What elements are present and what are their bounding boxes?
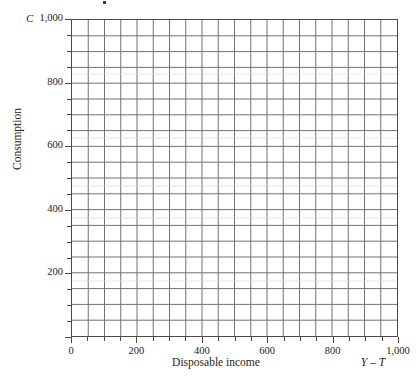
x-tick-mark	[136, 337, 137, 343]
y-tick-mark	[65, 146, 71, 147]
x-tick-label: 0	[48, 345, 94, 356]
y-tick-mark	[67, 51, 71, 52]
grid-lines	[72, 20, 397, 336]
x-tick-mark	[349, 337, 350, 341]
y-tick-label: 200	[15, 266, 63, 277]
x-tick-mark	[284, 337, 285, 341]
x-tick-label: 400	[179, 345, 225, 356]
y-tick-mark	[67, 178, 71, 179]
y-tick-mark	[67, 99, 71, 100]
x-tick-mark	[300, 337, 301, 341]
x-tick-mark	[185, 337, 186, 341]
x-axis-symbol: Y – T	[338, 356, 408, 368]
x-tick-mark	[87, 337, 88, 341]
x-tick-mark	[251, 337, 252, 341]
x-tick-mark	[365, 337, 366, 341]
y-tick-mark	[67, 258, 71, 259]
y-tick-label: 1,000	[15, 12, 63, 23]
x-tick-mark	[202, 337, 203, 343]
y-tick-mark	[67, 114, 71, 115]
x-tick-mark	[316, 337, 317, 341]
y-tick-mark	[65, 83, 71, 84]
y-tick-mark	[67, 35, 71, 36]
y-tick-mark	[67, 130, 71, 131]
x-tick-mark	[382, 337, 383, 341]
y-tick-mark	[65, 273, 71, 274]
y-tick-mark	[67, 321, 71, 322]
y-tick-mark	[67, 242, 71, 243]
y-tick-mark	[67, 162, 71, 163]
x-tick-mark	[398, 337, 399, 343]
y-tick-mark	[67, 305, 71, 306]
x-tick-mark	[333, 337, 334, 343]
y-tick-label: 800	[15, 76, 63, 87]
x-tick-mark	[153, 337, 154, 341]
scan-speck	[103, 1, 106, 4]
x-tick-mark	[218, 337, 219, 341]
y-tick-mark	[67, 67, 71, 68]
y-tick-mark	[65, 210, 71, 211]
x-tick-mark	[104, 337, 105, 341]
x-tick-label: 600	[244, 345, 290, 356]
x-axis-title: Disposable income	[126, 356, 306, 368]
y-tick-mark	[67, 289, 71, 290]
y-tick-label: 400	[15, 203, 63, 214]
y-tick-mark	[65, 19, 71, 20]
x-tick-mark	[71, 337, 72, 343]
x-tick-mark	[120, 337, 121, 341]
x-tick-mark	[169, 337, 170, 341]
x-tick-mark	[235, 337, 236, 341]
y-tick-mark	[67, 194, 71, 195]
figure-graph-paper: C Consumption 1,000800600400200 02004006…	[0, 0, 416, 382]
x-tick-mark	[267, 337, 268, 343]
x-tick-label: 200	[113, 345, 159, 356]
x-tick-label: 800	[310, 345, 356, 356]
x-tick-label: 1,000	[375, 345, 416, 356]
plot-area	[71, 19, 398, 337]
y-tick-label: 600	[15, 139, 63, 150]
y-tick-mark	[67, 226, 71, 227]
